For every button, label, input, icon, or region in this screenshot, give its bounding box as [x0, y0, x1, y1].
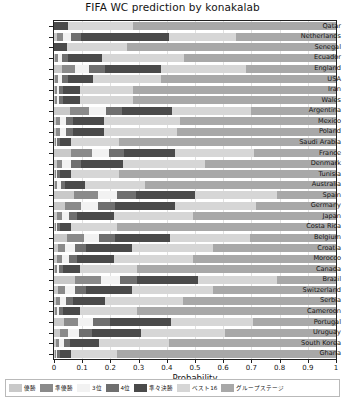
bar-segment: [169, 33, 237, 41]
y-axis-tick: [49, 142, 53, 143]
bar-segment: [124, 149, 175, 157]
bar-segment: [60, 170, 71, 178]
bar-segment: [81, 160, 123, 168]
y-axis-tick: [49, 79, 53, 80]
y-axis-label: Japan: [293, 213, 345, 220]
legend-item[interactable]: 優勝: [9, 384, 36, 392]
bar-segment: [171, 318, 253, 326]
y-axis-label: Brazil: [293, 276, 345, 283]
x-axis-tick: [280, 360, 281, 363]
bar-segment: [78, 318, 94, 326]
y-axis-label: Iran: [293, 86, 345, 93]
y-axis-label: Switzerland: [293, 287, 345, 294]
chart-legend[interactable]: 優勝準優勝3位4位準々決勝ベスト16グループステージ: [5, 379, 340, 397]
bar-segment: [172, 107, 251, 115]
bar-segment: [54, 202, 65, 210]
y-axis-label: USA: [293, 76, 345, 83]
bar-segment: [54, 65, 62, 73]
x-axis-tick: [195, 360, 196, 363]
bar-segment: [99, 234, 115, 242]
bar-segment: [63, 33, 71, 41]
y-axis-tick: [49, 195, 53, 196]
x-axis-tick-label: 0.8: [268, 364, 292, 372]
y-axis-tick: [49, 259, 53, 260]
bar-segment: [60, 329, 68, 337]
y-axis-label: Poland: [293, 128, 345, 135]
bar-segment: [54, 234, 67, 242]
bar-segment: [89, 65, 105, 73]
chart-title: FIFA WC prediction by konakalab: [0, 1, 345, 13]
y-axis-tick: [49, 343, 53, 344]
y-axis-label: Mexico: [293, 118, 345, 125]
bar-segment: [54, 318, 64, 326]
y-axis-label: France: [293, 150, 345, 157]
legend-item[interactable]: 3位: [77, 384, 102, 392]
legend-item[interactable]: ベスト16: [177, 384, 217, 392]
bar-segment: [73, 297, 105, 305]
bar-segment: [70, 107, 90, 115]
bar-segment: [54, 191, 74, 199]
legend-item[interactable]: 4位: [106, 384, 131, 392]
y-axis-label: Ecuador: [293, 54, 345, 61]
x-axis-tick-label: 0.5: [183, 364, 207, 372]
y-axis-label: Morocco: [293, 255, 345, 262]
legend-item[interactable]: 準優勝: [40, 384, 73, 392]
y-axis-tick: [49, 90, 53, 91]
x-axis-tick-label: 1: [324, 364, 345, 372]
legend-swatch: [9, 384, 22, 392]
bar-segment: [137, 276, 198, 284]
y-axis-label: Cameroon: [293, 308, 345, 315]
bar-segment: [68, 329, 79, 337]
bar-segment: [54, 276, 75, 284]
bar-segment: [102, 54, 184, 62]
x-axis-tick-label: 0.6: [211, 364, 235, 372]
bar-segment: [80, 96, 134, 104]
bar-segment: [75, 276, 100, 284]
bar-segment: [170, 234, 250, 242]
legend-swatch: [177, 384, 190, 392]
bar-segment: [64, 318, 78, 326]
bar-segment: [105, 297, 183, 305]
x-axis-tick: [54, 360, 55, 363]
bar-segment: [58, 244, 65, 252]
y-axis-label: Senegal: [293, 44, 345, 51]
bar-segment: [110, 318, 171, 326]
bar-segment: [62, 255, 69, 263]
bar-segment: [73, 128, 104, 136]
x-axis-tick-label: 0.4: [155, 364, 179, 372]
bar-segment: [54, 149, 71, 157]
bar-segment: [62, 160, 70, 168]
y-axis-tick: [49, 69, 53, 70]
y-axis-tick: [49, 301, 53, 302]
bar-segment: [98, 202, 115, 210]
bar-segment: [63, 265, 80, 273]
bar-segment: [117, 191, 135, 199]
bar-segment: [120, 276, 137, 284]
bar-segment: [109, 149, 125, 157]
bar-segment: [62, 65, 75, 73]
y-axis-tick: [49, 164, 53, 165]
bar-segment: [77, 212, 114, 220]
bar-segment: [67, 234, 84, 242]
legend-item[interactable]: グループステージ: [221, 384, 284, 392]
bar-segment: [75, 65, 89, 73]
bar-segment: [69, 255, 77, 263]
bar-segment: [101, 276, 121, 284]
y-axis-label: Portugal: [293, 319, 345, 326]
y-axis-label: Wales: [293, 97, 345, 104]
bar-segment: [80, 265, 138, 273]
y-axis-label: Denmark: [293, 160, 345, 167]
bar-segment: [85, 181, 146, 189]
y-axis-tick: [49, 153, 53, 154]
bar-segment: [66, 117, 73, 125]
bar-segment: [86, 244, 131, 252]
bar-segment: [75, 244, 86, 252]
y-axis-label: Croatia: [293, 245, 345, 252]
y-axis-tick: [49, 132, 53, 133]
x-axis-tick: [82, 360, 83, 363]
legend-label: ベスト16: [192, 384, 217, 392]
bar-segment: [93, 75, 161, 83]
bar-segment: [71, 138, 119, 146]
legend-item[interactable]: 準々決勝: [134, 384, 173, 392]
legend-swatch: [106, 384, 119, 392]
